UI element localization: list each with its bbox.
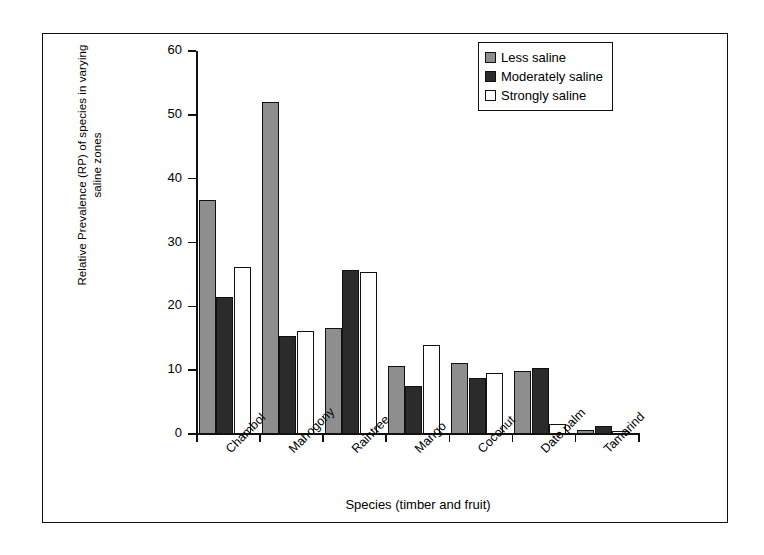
legend-swatch-less-saline (485, 52, 496, 63)
legend-item: Strongly saline (485, 86, 603, 105)
chart-figure: Relative Prevalence (RP) of species in v… (0, 0, 764, 555)
bar (279, 336, 296, 434)
y-axis-title-line2: saline zones (90, 15, 105, 315)
legend-item: Less saline (485, 48, 603, 67)
y-axis-tick-label: 10 (142, 361, 182, 376)
y-axis-tick-label: 30 (142, 234, 182, 249)
y-axis-tick (188, 369, 196, 371)
bar (405, 386, 422, 434)
legend-swatch-strongly-saline (485, 90, 496, 101)
y-axis-title: Relative Prevalence (RP) of species in v… (75, 15, 105, 315)
legend-swatch-moderately-saline (485, 71, 496, 82)
x-axis-tick (449, 434, 451, 442)
bar (532, 368, 549, 434)
y-axis-tick (188, 114, 196, 116)
chart-legend: Less saline Moderately saline Strongly s… (478, 42, 613, 111)
x-axis-tick (196, 434, 198, 442)
y-axis-title-line1: Relative Prevalence (RP) of species in v… (75, 15, 90, 315)
y-axis-tick-label: 0 (142, 425, 182, 440)
bar (262, 102, 279, 434)
bar (469, 378, 486, 434)
y-axis-tick-label: 40 (142, 170, 182, 185)
bar (595, 426, 612, 434)
y-axis-tick-label: 60 (142, 42, 182, 57)
y-axis-tick-label: 50 (142, 106, 182, 121)
y-axis-tick (188, 50, 196, 52)
bar (514, 371, 531, 434)
bar-group (259, 51, 322, 434)
x-axis-title: Species (timber and fruit) (196, 497, 640, 512)
y-axis-tick-label: 20 (142, 297, 182, 312)
legend-label: Moderately saline (501, 69, 603, 84)
bar (360, 272, 377, 434)
bar (297, 331, 314, 434)
x-axis-tick (512, 434, 514, 442)
bar (216, 297, 233, 434)
y-axis-tick (188, 306, 196, 308)
bar-group (196, 51, 259, 434)
x-axis-tick (259, 434, 261, 442)
x-axis-tick (575, 434, 577, 442)
y-axis-tick (188, 178, 196, 180)
bar (342, 270, 359, 434)
legend-item: Moderately saline (485, 67, 603, 86)
bar-group (322, 51, 385, 434)
bar (199, 200, 216, 434)
x-axis-tick (322, 434, 324, 442)
legend-label: Strongly saline (501, 88, 586, 103)
y-axis-tick (188, 242, 196, 244)
legend-label: Less saline (501, 50, 566, 65)
bar (577, 430, 594, 434)
bar-group (385, 51, 448, 434)
bar (234, 267, 251, 434)
bar (451, 363, 468, 434)
x-axis-tick (638, 434, 640, 442)
y-axis-tick (188, 433, 196, 435)
x-axis-tick (385, 434, 387, 442)
